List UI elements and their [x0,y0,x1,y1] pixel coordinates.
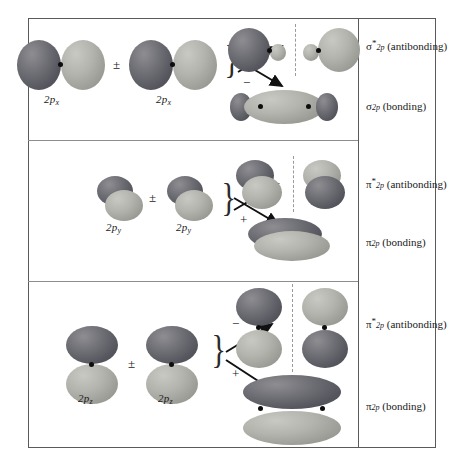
row-separator-2 [28,281,358,282]
orbital-label-2pz-right: 2pz [158,392,173,406]
row-separator-1 [28,140,358,141]
orbital-label-2pz-left: 2pz [78,392,93,406]
result-label-pi-z-bonding: π2p (bonding) [366,400,426,412]
orbital-label-2py-left: 2py [106,221,121,235]
result-label-pi-z-antibonding: π*2p (antibonding) [366,316,447,330]
orbital-label-2py-right: 2py [176,221,191,235]
orbital-label-2px-left: 2px [44,93,59,107]
combine-symbol-row1: ± [113,57,120,73]
result-label-sigma-antibonding: σ*2p (antibonding) [366,38,447,52]
orbital-label-2px-right: 2px [156,93,171,107]
result-label-pi-y-antibonding: π*2p (antibonding) [366,176,447,190]
combine-symbol-row2: ± [149,190,156,206]
result-label-sigma-bonding: σ2p (bonding) [366,100,426,112]
mo-diagram-figure: 2px ± 2px } + − [0,0,457,467]
combine-symbol-row3: ± [128,356,135,372]
label-column-divider [358,18,359,448]
result-label-pi-y-bonding: π2p (bonding) [366,236,426,248]
